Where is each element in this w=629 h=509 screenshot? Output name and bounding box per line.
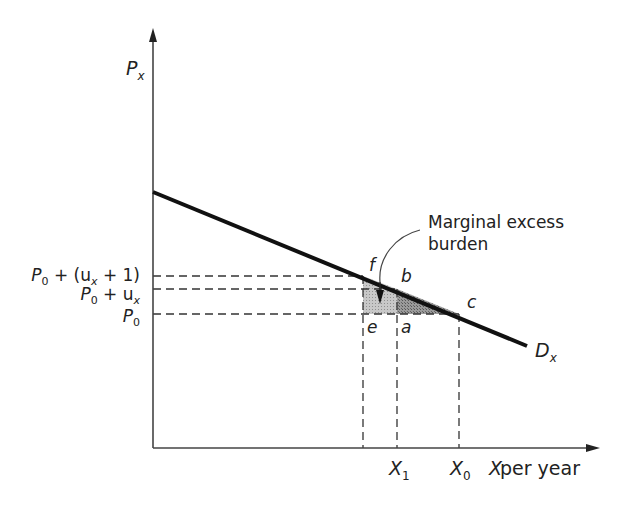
point-label-a: a — [401, 317, 411, 337]
price-label-p0: P0 — [123, 306, 140, 329]
quantity-label-x0: X0 — [449, 457, 471, 483]
diagram-canvas: Px X per year P0 + (ux + 1) P0 + ux P0 X… — [0, 0, 629, 509]
y-axis-arrow-icon — [149, 28, 157, 42]
point-label-c: c — [467, 292, 477, 312]
annotation-line-2: burden — [428, 234, 488, 254]
shaded-triangle-bac — [397, 289, 459, 314]
y-axis-label: Px — [126, 57, 145, 83]
annotation-curve — [380, 230, 420, 282]
demand-curve-label: Dx — [535, 339, 558, 365]
axes — [149, 28, 600, 452]
point-label-b: b — [401, 266, 412, 286]
quantity-label-x1: X1 — [388, 457, 410, 483]
point-label-e: e — [367, 317, 377, 337]
point-label-f: f — [369, 255, 378, 275]
x-axis-arrow-icon — [586, 444, 600, 452]
annotation-line-1: Marginal excess — [428, 212, 564, 232]
x-axis-label-rest: per year — [500, 457, 580, 479]
price-label-mid: P0 + ux — [80, 284, 140, 307]
